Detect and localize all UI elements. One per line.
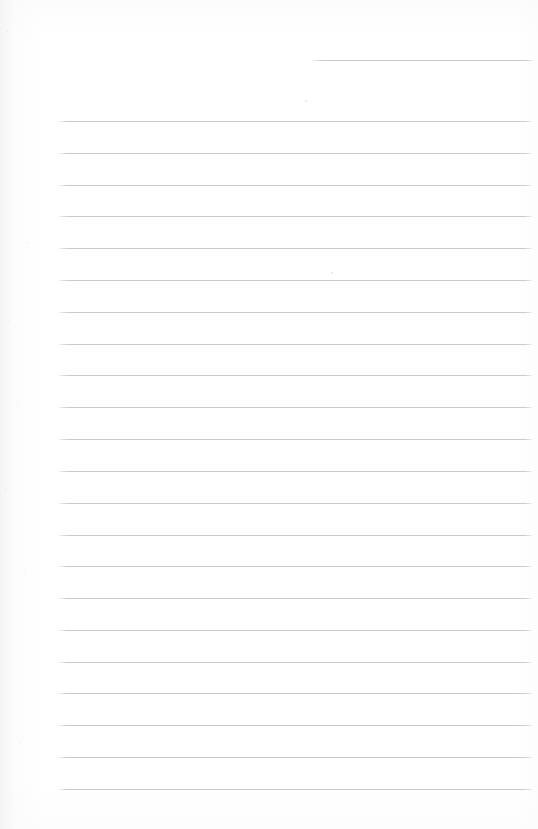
- header-rule: [312, 60, 533, 61]
- writing-area[interactable]: [58, 100, 532, 800]
- scanned-page: [0, 0, 538, 829]
